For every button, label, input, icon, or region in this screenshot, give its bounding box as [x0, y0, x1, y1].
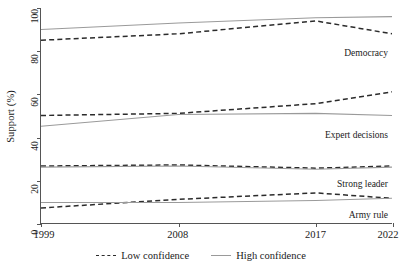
x-axis-tick-mark — [41, 223, 42, 227]
x-axis-tick-label: 2017 — [305, 228, 326, 242]
plot-frame: DemocracyExpert decisionsStrong leaderAr… — [40, 8, 392, 224]
legend-entry: High confidence — [211, 250, 306, 261]
x-axis-tick-mark — [316, 223, 317, 227]
series-annotation-strong-leader: Strong leader — [337, 179, 388, 190]
series-line — [41, 17, 392, 30]
legend-label: High confidence — [236, 250, 306, 261]
series-annotation-democracy: Democracy — [344, 48, 388, 59]
x-axis-tick-mark — [393, 223, 394, 227]
support-over-time-line-chart: Support (%) 020406080100 DemocracyExpert… — [0, 0, 402, 268]
legend-entry: Low confidence — [96, 250, 189, 261]
solid-line-icon — [211, 251, 231, 259]
y-axis-tick-mark — [37, 51, 41, 52]
plot-area — [41, 8, 392, 223]
y-axis-title: Support (%) — [2, 0, 18, 232]
x-axis-tick-label: 2022 — [378, 228, 399, 242]
series-line — [41, 21, 392, 40]
y-axis-tick-mark — [37, 8, 41, 9]
y-axis-tick-mark — [37, 94, 41, 95]
series-lines — [41, 8, 392, 223]
x-axis-tick-label: 1999 — [34, 228, 55, 242]
series-annotation-army-rule: Army rule — [349, 210, 388, 221]
x-axis-tick-labels: 1999200820172022 — [40, 228, 392, 244]
dashed-line-icon — [96, 251, 116, 259]
series-line — [41, 193, 392, 208]
y-axis-title-text: Support (%) — [5, 90, 16, 143]
x-axis-tick-label: 2008 — [167, 228, 188, 242]
series-line — [41, 92, 392, 116]
y-axis-tick-labels: 020406080100 — [17, 0, 36, 232]
x-axis-tick-mark — [179, 223, 180, 227]
series-annotation-expert-decisions: Expert decisions — [325, 130, 388, 141]
series-line — [41, 198, 392, 202]
y-axis-tick-mark — [37, 181, 41, 182]
chart-legend: Low confidenceHigh confidence — [0, 246, 402, 264]
y-axis-tick-mark — [37, 138, 41, 139]
legend-label: Low confidence — [121, 250, 189, 261]
